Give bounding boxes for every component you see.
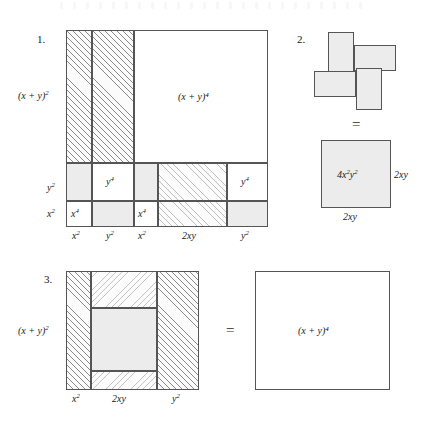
panel-one-left-label-x2: x2 (47, 209, 55, 219)
panel-two-number: 2. (297, 33, 305, 45)
panel-one-cell-r2c5 (227, 201, 268, 227)
panel-three-bottom-label-3: y2 (172, 394, 180, 404)
panel-one-left-label-xy2: (x + y)2 (18, 91, 49, 101)
panel-one-cell-label-y4-left: y4 (106, 177, 114, 187)
panel-three-middle-top (91, 271, 157, 308)
panel-one-cell-label-y4-right: y4 (241, 177, 249, 187)
panel-three-equals-sign: = (226, 322, 234, 339)
panel-one-cell-r1c4 (158, 163, 227, 201)
panel-one-cell-label-x4-left: x4 (71, 209, 79, 219)
panel-two-side-label-right: 2xy (394, 170, 408, 180)
panel-two-result-square-label: 4x2y2 (337, 170, 358, 180)
panel-one-bottom-label-5: y2 (241, 231, 249, 241)
panel-one-cell-r2c1 (66, 201, 92, 227)
panel-one-bottom-label-3: x2 (138, 231, 146, 241)
panel-one-cell-r2c2 (92, 201, 134, 227)
panel-one-bottom-label-1: x2 (72, 231, 80, 241)
panel-one-hatch-strip-a (66, 30, 92, 163)
panel-one-left-label-y2: y2 (47, 183, 55, 193)
panel-three-bottom-label-1: x2 (72, 394, 80, 404)
panel-one-big-square-label: (x + y)⁴ (178, 92, 209, 102)
panel-three-number: 3. (44, 273, 52, 285)
panel-three-column-right (157, 271, 199, 390)
panel-two-rect-bottom (356, 68, 382, 110)
panel-three-bottom-label-2: 2xy (112, 394, 126, 404)
panel-one-bottom-label-2: y2 (106, 231, 114, 241)
panel-two-pinwheel: 2. = 4x2y2 2xy 2xy (290, 0, 425, 250)
panel-three-assembled: 3. (x + y)2 x2 2xy y2 = (x + y)⁴ (0, 250, 425, 425)
panel-two-side-label-bottom: 2xy (343, 212, 357, 222)
panel-two-rect-top (328, 32, 354, 74)
panel-one-hatch-strip-b (92, 30, 134, 163)
panel-one-number: 1. (37, 33, 45, 45)
panel-three-middle-bottom (91, 371, 157, 390)
panel-three-left-label: (x + y)2 (18, 326, 49, 336)
panel-one-bottom-label-4: 2xy (182, 231, 196, 241)
panel-one-cell-r1c3 (134, 163, 158, 201)
panel-three-column-left (66, 271, 91, 390)
panel-two-rect-left (314, 71, 356, 97)
panel-one-cell-r1c1 (66, 163, 92, 201)
panel-three-result-label: (x + y)⁴ (298, 326, 329, 336)
panel-one-cell-label-x4-right: x4 (138, 209, 146, 219)
panel-one-cell-r2c4 (158, 201, 227, 227)
panel-two-equals-sign: = (352, 116, 360, 133)
panel-three-middle-center (91, 308, 157, 371)
panel-one-decomposition: 1. (x + y)2 y2 x2 (x + y)⁴ y4 y4 x4 x4 x… (0, 0, 290, 250)
